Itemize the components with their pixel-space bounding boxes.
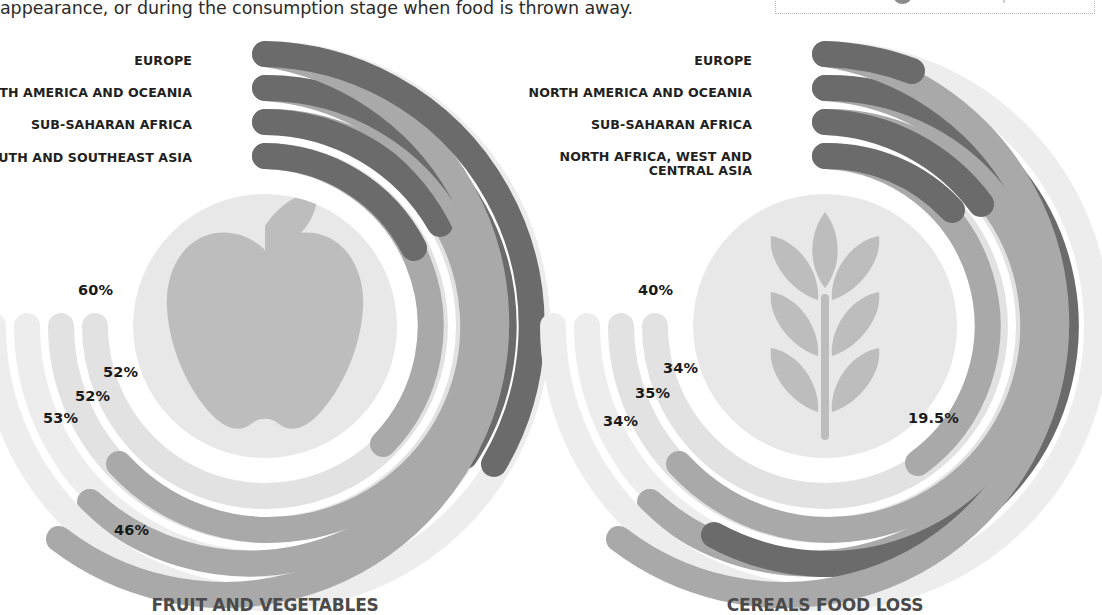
chart-title-fruit-and-vegetables: FRUIT AND VEGETABLES bbox=[65, 595, 465, 615]
label-north-africa-west-and-central-asia-line2: CENTRAL ASIA bbox=[252, 164, 752, 178]
legend-row bbox=[776, 0, 1094, 13]
legend-callout-box bbox=[775, 0, 1095, 14]
percent-sub-saharan-africa: 35% bbox=[635, 385, 670, 401]
label-north-america-and-oceania: NORTH AMERICA AND OCEANIA bbox=[252, 86, 752, 100]
tick-mark-icon bbox=[1003, 0, 1007, 3]
body-paragraph: appearance, or during the consumption st… bbox=[0, 0, 700, 20]
label-sub-saharan-africa: SUB-SAHARAN AFRICA bbox=[0, 118, 192, 132]
chart-title-cereals-food-loss: CEREALS FOOD LOSS bbox=[625, 595, 1025, 615]
percent-europe: 60% bbox=[78, 282, 113, 298]
percent-extra-consumption: 19.5% bbox=[908, 410, 959, 426]
percent-south-and-southeast-asia: 53% bbox=[43, 410, 78, 426]
label-south-and-southeast-asia: SOUTH AND SOUTHEAST ASIA bbox=[0, 151, 192, 165]
label-europe: EUROPE bbox=[0, 54, 192, 68]
label-north-america-and-oceania: NORTH AMERICA AND OCEANIA bbox=[0, 86, 192, 100]
percent-north-america-and-oceania: 34% bbox=[663, 360, 698, 376]
percent-extra-consumption: 46% bbox=[114, 522, 149, 538]
gray-dot-icon bbox=[894, 0, 911, 4]
label-north-africa-west-and-central-asia-line1: NORTH AFRICA, WEST AND bbox=[252, 150, 752, 164]
percent-north-africa-west-and-central-asia: 34% bbox=[603, 413, 638, 429]
radial-chart-cereals-food-loss: EUROPE NORTH AMERICA AND OCEANIA SUB-SAH… bbox=[508, 44, 1068, 604]
label-sub-saharan-africa: SUB-SAHARAN AFRICA bbox=[252, 118, 752, 132]
percent-sub-saharan-africa: 52% bbox=[75, 388, 110, 404]
percent-europe: 40% bbox=[638, 282, 673, 298]
label-europe: EUROPE bbox=[252, 54, 752, 68]
percent-north-america-and-oceania: 52% bbox=[103, 364, 138, 380]
